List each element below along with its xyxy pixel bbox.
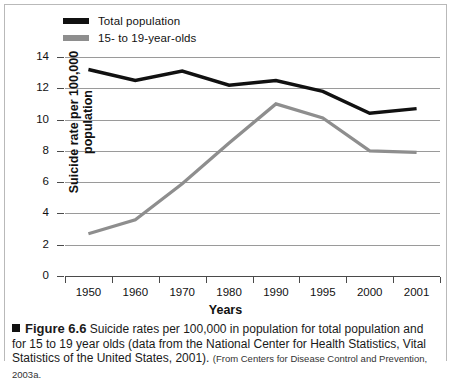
figure-frame-top-rule <box>4 4 447 5</box>
y-axis-tick-label: 4 <box>27 206 49 218</box>
y-axis-tick-label: 12 <box>27 81 49 93</box>
y-axis-tick <box>57 151 64 152</box>
x-axis-tick-label: 2001 <box>392 286 442 298</box>
gridline <box>65 57 440 58</box>
legend-label-teens: 15- to 19-year-olds <box>98 32 196 44</box>
y-axis-title: Suicide rate per 100,000 population <box>67 37 95 207</box>
legend-swatch-total-population <box>63 18 89 24</box>
y-axis-tick-label: 6 <box>27 175 49 187</box>
x-axis-tick <box>159 277 160 283</box>
y-axis-tick <box>57 88 64 89</box>
y-axis-tick-label: 0 <box>27 269 49 281</box>
gridline <box>65 182 440 183</box>
x-axis-tick <box>346 277 347 283</box>
legend-label-total-population: Total population <box>98 15 180 27</box>
x-axis-tick-label: 1960 <box>110 286 160 298</box>
y-axis-tick-label: 8 <box>27 144 49 156</box>
x-axis-tick-label: 1950 <box>63 286 113 298</box>
gridline <box>65 88 440 89</box>
y-axis-tick <box>57 213 64 214</box>
y-axis-tick <box>57 120 64 121</box>
y-axis-tick <box>57 245 64 246</box>
x-axis-tick <box>299 277 300 283</box>
gridline <box>65 151 440 152</box>
y-axis-tick <box>57 182 64 183</box>
x-axis-tick <box>206 277 207 283</box>
y-axis-tick-label: 2 <box>27 238 49 250</box>
figure-caption: Figure 6.6 Suicide rates per 100,000 in … <box>12 322 440 382</box>
x-axis-tick <box>253 277 254 283</box>
x-axis-tick <box>393 277 394 283</box>
x-axis-tick-label: 1980 <box>204 286 254 298</box>
x-axis-title: Years <box>0 303 451 317</box>
gridline <box>65 213 440 214</box>
y-axis-tick-label: 14 <box>27 50 49 62</box>
y-axis-tick <box>57 57 64 58</box>
x-axis-tick-label: 1995 <box>298 286 348 298</box>
x-axis-tick-label: 1970 <box>157 286 207 298</box>
y-axis-tick-label: 10 <box>27 113 49 125</box>
x-axis-tick-label: 1990 <box>251 286 301 298</box>
y-axis-tick <box>57 276 64 277</box>
caption-figure-number: Figure 6.6 <box>25 321 86 336</box>
x-axis-tick <box>112 277 113 283</box>
x-axis-tick-label: 2000 <box>345 286 395 298</box>
x-axis-tick <box>65 277 66 283</box>
legend-item-total-population: Total population <box>63 12 263 29</box>
gridline <box>65 245 440 246</box>
plot-area <box>65 57 440 276</box>
x-axis-tick <box>440 277 441 283</box>
gridline <box>65 120 440 121</box>
caption-bullet-icon <box>12 324 20 332</box>
